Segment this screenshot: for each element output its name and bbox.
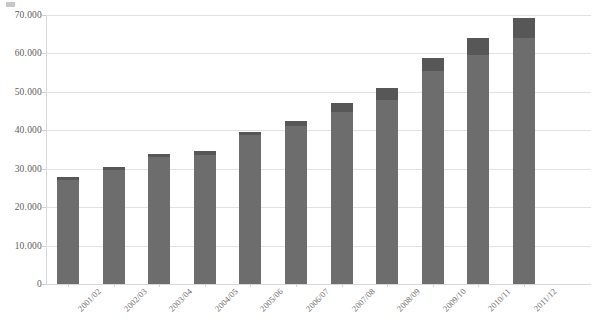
x-tick-label: 2008/09	[396, 287, 423, 314]
x-tick-mark	[387, 284, 388, 287]
x-tick-mark	[342, 284, 343, 287]
bar-segment-lower	[57, 180, 79, 284]
y-tick-label: 10.000	[0, 241, 42, 251]
bar-2002-03	[103, 15, 125, 284]
x-tick-mark	[159, 284, 160, 287]
x-tick-label: 2009/10	[441, 287, 468, 314]
x-tick-label: 2011/12	[532, 287, 558, 313]
x-tick-label: 2001/02	[76, 287, 103, 314]
x-tick-mark	[114, 284, 115, 287]
bar-2005-06	[239, 15, 261, 284]
x-tick-mark	[524, 284, 525, 287]
y-tick-label: 70.000	[0, 10, 42, 20]
bar-2007-08	[331, 15, 353, 284]
x-tick-mark	[478, 284, 479, 287]
x-tick-mark	[68, 284, 69, 287]
bar-2001-02	[57, 15, 79, 284]
gridline	[46, 246, 591, 247]
bar-2009-10	[422, 15, 444, 284]
bar-segment-lower	[148, 157, 170, 284]
bar-2011-12	[513, 15, 535, 284]
x-axis-tick-labels: 2001/022002/032003/042004/052005/062006/…	[0, 287, 596, 326]
bar-segment-upper	[148, 154, 170, 157]
bar-segment-lower	[239, 135, 261, 284]
bar-2010-11	[467, 15, 489, 284]
x-tick-label: 2005/06	[259, 287, 286, 314]
x-tick-mark	[205, 284, 206, 287]
bar-segment-upper	[103, 167, 125, 170]
gridline	[46, 130, 591, 131]
gridline	[46, 92, 591, 93]
bar-segment-upper	[513, 18, 535, 38]
bar-segment-lower	[285, 126, 307, 284]
bar-segment-upper	[422, 58, 444, 71]
bar-segment-lower	[422, 71, 444, 284]
y-tick-label: 40.000	[0, 125, 42, 135]
bar-segment-upper	[285, 121, 307, 126]
bar-2006-07	[285, 15, 307, 284]
x-tick-mark	[296, 284, 297, 287]
x-tick-label: 2010/11	[487, 287, 513, 313]
y-tick-label: 30.000	[0, 164, 42, 174]
x-tick-mark	[433, 284, 434, 287]
bar-segment-upper	[57, 177, 79, 180]
bar-segment-upper	[239, 132, 261, 135]
y-axis-tick-labels: 010.00020.00030.00040.00050.00060.00070.…	[0, 0, 42, 326]
gridline	[46, 15, 591, 16]
bar-segment-upper	[331, 103, 353, 112]
bar-2008-09	[376, 15, 398, 284]
x-tick-label: 2006/07	[304, 287, 331, 314]
y-tick-label: 50.000	[0, 87, 42, 97]
bar-segment-lower	[467, 55, 489, 284]
x-tick-label: 2007/08	[350, 287, 377, 314]
x-tick-label: 2003/04	[168, 287, 195, 314]
gridline	[46, 169, 591, 170]
bar-segment-lower	[103, 170, 125, 284]
bar-chart: 010.00020.00030.00040.00050.00060.00070.…	[0, 0, 596, 326]
bar-2004-05	[194, 15, 216, 284]
bar-segment-lower	[331, 112, 353, 284]
x-tick-label: 2002/03	[122, 287, 149, 314]
bar-2003-04	[148, 15, 170, 284]
gridline	[46, 284, 591, 285]
y-tick-label: 20.000	[0, 202, 42, 212]
bar-segment-lower	[376, 100, 398, 284]
plot-area	[46, 15, 591, 284]
y-tick-label: 60.000	[0, 48, 42, 58]
gridline	[46, 207, 591, 208]
bar-segment-upper	[467, 38, 489, 55]
bar-segment-lower	[194, 155, 216, 285]
bar-segment-upper	[194, 151, 216, 154]
bar-segment-upper	[376, 88, 398, 100]
bar-segment-lower	[513, 38, 535, 284]
x-tick-label: 2004/05	[213, 287, 240, 314]
x-tick-mark	[250, 284, 251, 287]
gridline	[46, 53, 591, 54]
